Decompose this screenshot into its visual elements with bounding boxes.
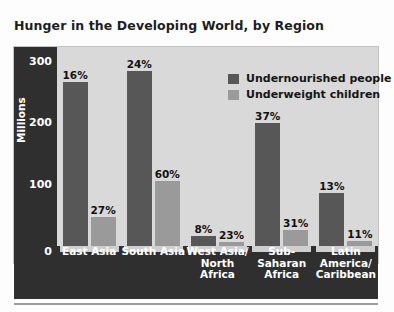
bar-undernourished — [319, 193, 344, 246]
bar-value-label: 24% — [123, 58, 156, 70]
bar-underweight — [155, 181, 180, 246]
y-tick-100: 100 — [29, 179, 52, 190]
bar-group: 16%27% — [57, 47, 121, 246]
legend-swatch-icon — [228, 90, 239, 100]
bar-value-label: 16% — [59, 69, 92, 81]
bar-value-label: 23% — [215, 229, 248, 241]
y-axis-label: Millions — [15, 97, 27, 143]
y-tick-300: 300 — [29, 56, 52, 67]
bar-value-label: 60% — [151, 168, 184, 180]
chart-panel: 300 200 100 Millions 16%27%24%60%8%23%37… — [14, 47, 378, 263]
y-axis: 300 200 100 Millions — [14, 47, 57, 246]
category-label: LatinAmerica/Caribbean — [306, 246, 386, 281]
bar-group: 8%23% — [185, 47, 249, 246]
bar-underweight — [283, 230, 308, 246]
legend-label: Undernourished people — [246, 72, 391, 85]
bar-value-label: 13% — [315, 180, 348, 192]
bar-value-label: 11% — [343, 228, 376, 240]
chart-figure: Hunger in the Developing World, by Regio… — [0, 0, 394, 312]
bar-value-label: 27% — [87, 204, 120, 216]
bar-undernourished — [63, 82, 88, 247]
legend-swatch-icon — [228, 74, 239, 84]
bar-group: 24%60% — [121, 47, 185, 246]
bar-undernourished — [127, 71, 152, 246]
bar-undernourished — [255, 123, 280, 246]
bar-value-label: 37% — [251, 110, 284, 122]
footer-divider — [14, 303, 378, 305]
bar-value-label: 31% — [279, 217, 312, 229]
y-tick-200: 200 — [29, 117, 52, 128]
bar-underweight — [91, 217, 116, 246]
x-axis-categories: East AsiaSouth AsiaWest Asia/NorthAfrica… — [14, 263, 378, 299]
legend-label: Underweight children — [246, 88, 380, 101]
y-tick-0: 0 — [14, 245, 52, 258]
page-title: Hunger in the Developing World, by Regio… — [14, 18, 324, 33]
